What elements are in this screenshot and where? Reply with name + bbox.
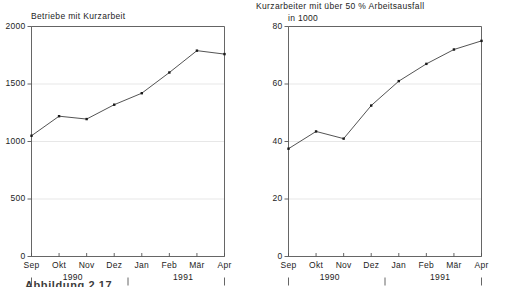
chart-panel-betriebe: Betriebe mit Kurzarbeit 0500100015002000… [0, 0, 257, 287]
y-axis-tick-label: 500 [0, 193, 26, 203]
y-axis-tick-label: 60 [257, 78, 283, 88]
figure-caption: Abbildung 2.17 [25, 279, 112, 287]
y-axis-tick-label: 20 [257, 193, 283, 203]
chart-plot-betriebe [0, 0, 257, 287]
x-axis-year-label: 1991 [161, 272, 205, 282]
data-point-marker [287, 147, 289, 149]
chart-panel-kurzarbeiter: Kurzarbeiter mit über 50 % Arbeitsausfal… [257, 0, 514, 287]
y-axis-tick-label: 40 [257, 136, 283, 146]
data-point-marker [113, 104, 115, 106]
data-point-marker [425, 63, 427, 65]
data-point-marker [196, 49, 198, 51]
data-point-marker [453, 48, 455, 50]
x-axis-tick-label: Apr [464, 260, 500, 270]
data-point-marker [85, 118, 87, 120]
data-point-marker [398, 80, 400, 82]
y-axis-tick-label: 1500 [0, 78, 26, 88]
y-axis-tick-label: 80 [257, 21, 283, 31]
x-axis-year-label: 1990 [308, 272, 352, 282]
data-point-marker [370, 104, 372, 106]
x-axis-tick-label: Apr [207, 260, 243, 270]
data-point-marker [223, 53, 225, 55]
figure-page: Betriebe mit Kurzarbeit 0500100015002000… [0, 0, 515, 287]
data-point-marker [480, 40, 482, 42]
data-point-marker [30, 135, 32, 137]
y-axis-tick-label: 1000 [0, 136, 26, 146]
data-point-marker [315, 130, 317, 132]
data-point-marker [58, 115, 60, 117]
data-point-marker [168, 71, 170, 73]
y-axis-tick-label: 2000 [0, 21, 26, 31]
data-series-line [32, 51, 225, 136]
data-point-marker [342, 137, 344, 139]
data-series-line [289, 41, 482, 149]
x-axis-year-label: 1991 [418, 272, 462, 282]
data-point-marker [141, 92, 143, 94]
chart-plot-kurzarbeiter [257, 0, 514, 287]
